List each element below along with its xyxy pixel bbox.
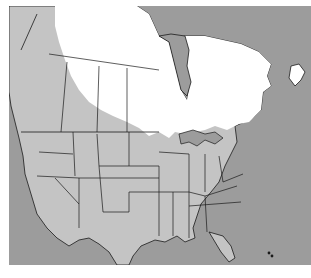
figure-caption	[9, 268, 309, 277]
island-dot	[271, 255, 274, 258]
island-dot	[268, 252, 271, 255]
map-figure	[0, 0, 311, 278]
north-america-range-map	[9, 6, 311, 265]
